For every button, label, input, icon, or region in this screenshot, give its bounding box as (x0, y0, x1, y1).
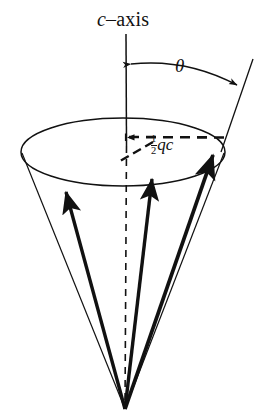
moment-vector-arrow-left (66, 192, 125, 409)
dashed-radius-arrowhead (127, 134, 135, 140)
qc-label-leader-line (120, 142, 153, 161)
one-half-fraction: 1 2 (151, 134, 157, 157)
radius-label-suffix: qc (157, 135, 173, 154)
slant-reference-line (221, 59, 253, 152)
dashed-radius-line (129, 137, 226, 138)
c-axis-line-solid (126, 34, 127, 146)
cone-diagram-figure: c–axis θ 1 2 qc (0, 0, 266, 417)
diagram-canvas (0, 0, 266, 417)
c-axis-word: axis (116, 8, 149, 30)
c-axis-symbol: c (97, 8, 106, 30)
theta-angle-label: θ (175, 56, 184, 75)
generator-left (22, 153, 125, 409)
fraction-numerator: 1 (151, 134, 157, 146)
c-axis-label: c–axis (97, 9, 149, 29)
radius-length-label: 1 2 qc (150, 134, 173, 157)
fraction-denominator: 2 (151, 146, 157, 157)
c-axis-separator: – (106, 8, 116, 30)
cone-rim-ellipse (21, 118, 225, 186)
